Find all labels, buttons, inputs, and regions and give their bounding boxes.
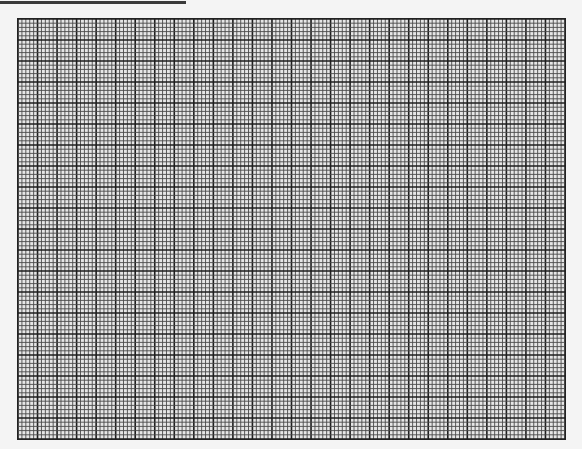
grid-lines [18, 19, 565, 439]
top-rule-line [0, 1, 186, 4]
graph-paper-grid [17, 18, 566, 440]
